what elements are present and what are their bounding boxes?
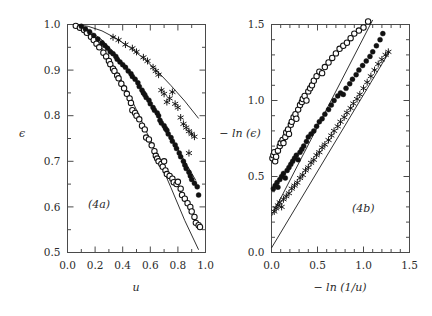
y-tick-label: 0.7	[44, 155, 61, 167]
data-point-asterisk	[123, 41, 128, 47]
data-point-asterisk	[175, 104, 180, 110]
data-point-asterisk	[348, 105, 353, 111]
data-point-asterisk	[342, 114, 347, 120]
data-point-asterisk	[344, 110, 349, 116]
panel-4b-frame	[272, 25, 410, 253]
data-point-open-circle	[175, 179, 180, 184]
data-point-open-circle	[116, 76, 121, 81]
panel-4a-fit-curves	[74, 25, 198, 250]
x-tick-label: 1.0	[355, 259, 372, 271]
data-point-filled-circle	[329, 103, 334, 108]
data-point-open-circle	[121, 86, 126, 91]
y-tick-label: 1.0	[44, 18, 61, 30]
panel-4a-x-tick-labels: 0.00.20.40.60.81.0	[59, 259, 214, 271]
panel-4b-label: (4b)	[352, 202, 375, 215]
panel-4b-x-axis-label: − ln (1/u)	[313, 281, 366, 294]
x-tick-label: 0.4	[114, 259, 131, 271]
data-point-filled-circle	[326, 107, 331, 112]
panel-4a-y-ticks	[68, 25, 206, 253]
data-point-open-circle	[142, 127, 147, 132]
series-filled-circles	[271, 31, 385, 191]
data-point-asterisk	[365, 79, 370, 85]
data-point-asterisk	[338, 119, 343, 125]
panel-4b-x-ticks	[272, 25, 410, 253]
y-tick-label: 0.8	[44, 109, 61, 121]
data-point-filled-circle	[354, 72, 359, 77]
x-tick-label: 0.0	[59, 259, 76, 271]
data-point-filled-circle	[195, 184, 200, 189]
data-point-open-circle	[178, 186, 183, 191]
data-point-open-circle	[192, 214, 197, 219]
data-point-open-circle	[365, 19, 370, 24]
data-point-filled-circle	[380, 31, 385, 36]
data-point-asterisk	[161, 91, 166, 97]
y-tick-label: 1.5	[248, 18, 265, 30]
x-tick-label: 0.6	[142, 259, 159, 271]
data-point-open-circle	[319, 70, 324, 75]
data-point-asterisk	[354, 96, 359, 102]
data-point-filled-circle	[347, 81, 352, 86]
data-point-open-circle	[137, 117, 142, 122]
x-tick-label: 0.5	[309, 259, 326, 271]
data-point-filled-circle	[296, 157, 301, 162]
data-point-asterisk	[329, 132, 334, 138]
data-point-filled-circle	[275, 185, 280, 190]
data-point-filled-circle	[196, 193, 201, 198]
data-point-open-circle	[273, 154, 278, 159]
data-point-open-circle	[161, 159, 166, 164]
data-point-filled-circle	[311, 128, 316, 133]
data-point-asterisk	[361, 85, 366, 91]
data-point-open-circle	[197, 224, 202, 229]
x-tick-label: 1.0	[197, 259, 214, 271]
x-tick-label: 1.5	[401, 259, 418, 271]
data-point-filled-circle	[360, 63, 365, 68]
data-point-filled-circle	[332, 98, 337, 103]
panel-4a-y-tick-labels: 0.50.60.70.80.91.0	[44, 18, 61, 258]
data-point-asterisk	[357, 91, 362, 97]
data-point-filled-circle	[320, 116, 325, 121]
data-point-asterisk	[368, 73, 373, 79]
data-point-open-circle	[286, 131, 291, 136]
y-tick-label: 0.6	[44, 201, 61, 213]
data-point-filled-circle	[95, 37, 100, 42]
panel-4a-frame	[68, 25, 206, 253]
data-point-open-circle	[294, 116, 299, 121]
data-point-asterisk	[372, 67, 377, 73]
data-point-asterisk	[351, 100, 356, 106]
data-point-open-circle	[361, 25, 366, 30]
fit-open-circles	[74, 25, 198, 249]
data-point-filled-circle	[91, 33, 96, 38]
lower-reference-line	[272, 52, 390, 248]
data-point-open-circle	[304, 98, 309, 103]
two-panel-scatter-figure: 0.00.20.40.60.81.0 0.50.60.70.80.91.0 u …	[0, 0, 432, 316]
data-point-filled-circle	[174, 146, 179, 151]
panel-4a-x-ticks	[68, 25, 206, 253]
panel-4a: 0.00.20.40.60.81.0 0.50.60.70.80.91.0 u …	[19, 18, 214, 294]
data-point-asterisk	[167, 95, 172, 101]
series-open-circles	[270, 19, 371, 164]
data-point-filled-circle	[156, 113, 161, 118]
y-tick-label: 0.9	[44, 64, 61, 76]
panel-4a-y-axis-label: ϵ	[19, 127, 25, 140]
panel-4b-x-tick-labels: 0.00.51.01.5	[263, 259, 418, 271]
data-point-asterisk	[178, 114, 183, 120]
data-point-filled-circle	[178, 154, 183, 159]
data-point-filled-circle	[367, 54, 372, 59]
data-point-filled-circle	[304, 139, 309, 144]
data-point-open-circle	[97, 45, 102, 50]
x-tick-label: 0.0	[263, 259, 280, 271]
panel-4b-y-ticks	[272, 25, 410, 253]
data-point-asterisk	[335, 123, 340, 129]
data-point-asterisk	[116, 37, 121, 43]
x-tick-label: 0.8	[170, 259, 187, 271]
panel-4a-label: (4a)	[88, 198, 110, 211]
data-point-filled-circle	[344, 86, 349, 91]
y-tick-label: 0.0	[248, 246, 265, 258]
data-point-filled-circle	[301, 144, 306, 149]
panel-4b: 0.00.51.01.5 0.00.51.01.5 − ln (1/u) − l…	[219, 18, 418, 294]
data-point-asterisk	[186, 150, 191, 156]
data-point-filled-circle	[364, 58, 369, 63]
y-tick-label: 1.0	[248, 94, 265, 106]
data-point-open-circle	[281, 140, 286, 145]
y-tick-label: 0.5	[248, 170, 265, 182]
